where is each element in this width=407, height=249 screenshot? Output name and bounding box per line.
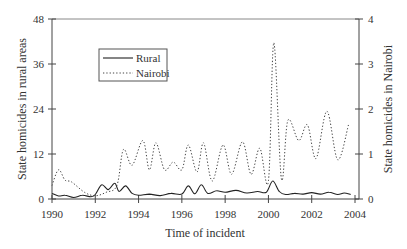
plot-frame	[52, 19, 359, 199]
y-tick-label-left: 48	[33, 13, 45, 25]
legend-nairobi-label: Nairobi	[136, 67, 170, 79]
legend-rural-label: Rural	[136, 52, 160, 64]
x-tick-label: 1998	[214, 208, 237, 220]
series-nairobi	[52, 43, 349, 196]
chart: 19901992199419961998200020022004 0122436…	[0, 0, 407, 249]
x-axis-title: Time of incident	[165, 226, 245, 240]
y-tick-label-left: 36	[33, 58, 45, 70]
y-tick-label-right: 3	[368, 58, 374, 70]
x-tick-label: 1992	[84, 208, 106, 220]
x-tick-label: 1990	[41, 208, 64, 220]
x-tick-label: 2004	[344, 208, 367, 220]
x-tick-label: 2002	[301, 208, 323, 220]
legend: Rural Nairobi	[99, 49, 170, 81]
y-tick-label-left: 12	[33, 148, 44, 160]
x-tick-label: 1996	[171, 208, 194, 220]
y-tick-label-right: 4	[368, 13, 374, 25]
x-tick-label: 2000	[257, 208, 280, 220]
x-tick-label: 1994	[128, 208, 151, 220]
y-axis-title-right: State homicides in Nairobi	[381, 44, 395, 173]
y-tick-label-right: 2	[368, 103, 374, 115]
y-tick-label-left: 0	[39, 193, 45, 205]
y-tick-label-left: 24	[33, 103, 45, 115]
y-axis-title-left: State homicides in rural areas	[15, 38, 29, 180]
y-ticks-left: 012243648	[33, 13, 56, 205]
y-tick-label-right: 1	[368, 148, 374, 160]
y-tick-label-right: 0	[368, 193, 374, 205]
y-ticks-right: 01234	[355, 13, 374, 205]
series-rural	[52, 181, 351, 198]
